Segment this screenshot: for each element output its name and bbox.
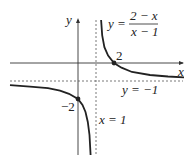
y-axis-arrow-icon — [76, 18, 80, 23]
vertical-asymptote-label: x = 1 — [98, 112, 127, 127]
graph-svg: y x 2 −2 y = 2 − x x − 1 y = −1 x = 1 — [0, 0, 190, 157]
y-intercept-label: −2 — [61, 99, 75, 114]
function-numerator: 2 − x — [130, 8, 158, 23]
graph-figure: y x 2 −2 y = 2 − x x − 1 y = −1 x = 1 — [0, 0, 190, 157]
x-intercept-label: 2 — [116, 48, 123, 63]
function-denominator: x − 1 — [130, 24, 159, 39]
y-intercept-point — [76, 97, 81, 102]
curve-left-branch — [10, 85, 91, 155]
horizontal-asymptote-label: y = −1 — [120, 82, 158, 97]
function-lhs: y = — [106, 16, 126, 31]
x-axis-label: x — [177, 64, 184, 79]
y-axis-label: y — [64, 12, 72, 27]
